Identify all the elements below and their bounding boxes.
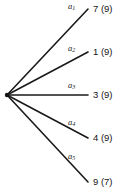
- edges-group: [7, 9, 88, 182]
- edge-label-a2: a2: [68, 44, 75, 53]
- edge-label-subscript-a2: 2: [72, 47, 75, 53]
- value-label-a4: 4 (9): [93, 133, 113, 143]
- value-label-a5: 9 (7): [93, 177, 113, 187]
- edge-a4: [7, 95, 88, 138]
- edge-label-a1: a1: [68, 2, 75, 11]
- value-label-a3: 3 (9): [93, 90, 113, 100]
- edge-label-subscript-a4: 4: [72, 121, 75, 127]
- edge-label-a5: a5: [68, 152, 75, 161]
- edge-label-subscript-a5: 5: [72, 155, 75, 161]
- edge-label-subscript-a1: 1: [72, 5, 75, 11]
- value-label-a1: 7 (9): [93, 4, 113, 14]
- fan-diagram: a17 (9)a21 (9)a33 (9)a44 (9)a59 (7): [0, 0, 123, 192]
- value-label-a2: 1 (9): [93, 47, 113, 57]
- root-vertex-dot: [5, 93, 9, 97]
- edge-label-a3: a3: [68, 81, 75, 90]
- edge-label-a4: a4: [68, 118, 75, 127]
- edge-a5: [7, 95, 88, 182]
- edge-a2: [7, 52, 88, 95]
- edge-label-subscript-a3: 3: [72, 84, 75, 90]
- edge-a1: [7, 9, 88, 95]
